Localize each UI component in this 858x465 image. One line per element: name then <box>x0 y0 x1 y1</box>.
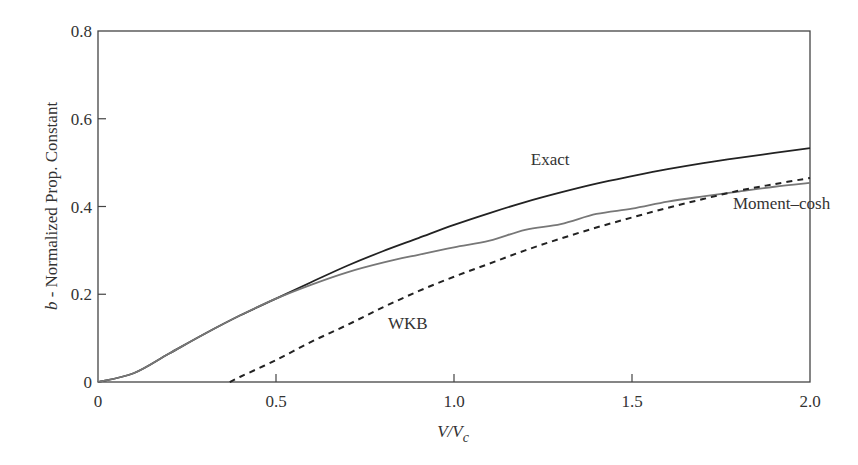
y-tick-label: 0 <box>84 373 93 392</box>
y-tick-label: 0.8 <box>71 22 92 41</box>
series-exact-line <box>98 148 810 382</box>
annotation-layer: ExactMoment–coshWKB <box>388 150 831 334</box>
y-axis-label-symbol: b <box>42 302 61 311</box>
y-axis-label: b - Normalized Prop. Constant <box>42 102 61 310</box>
y-tick-label: 0.4 <box>71 198 93 217</box>
x-tick-label: 1.0 <box>443 392 464 411</box>
chart: 00.20.40.60.8 00.51.01.52.0 ExactMoment–… <box>0 0 858 465</box>
y-tick-label: 0.6 <box>71 110 92 129</box>
annotation-wkb: WKB <box>388 314 428 333</box>
x-tick-label: 1.5 <box>621 392 642 411</box>
x-axis-label-main: V/V <box>437 422 465 441</box>
annotation-moment-cosh: Moment–cosh <box>733 194 831 213</box>
y-axis-label-text: - Normalized Prop. Constant <box>42 102 61 302</box>
x-axis-label-subscript: c <box>463 430 470 445</box>
plot-frame <box>98 31 810 382</box>
x-axis-label: V/Vc <box>437 422 470 445</box>
series-layer <box>98 148 810 382</box>
x-tick-label: 2.0 <box>799 392 820 411</box>
x-axis-ticks: 00.51.01.52.0 <box>94 374 821 411</box>
y-tick-label: 0.2 <box>71 285 92 304</box>
x-tick-label: 0.5 <box>265 392 286 411</box>
x-tick-label: 0 <box>94 392 103 411</box>
y-axis-ticks: 00.20.40.60.8 <box>71 22 106 392</box>
annotation-exact: Exact <box>531 150 570 169</box>
plot-area-border <box>98 31 810 382</box>
series-moment-cosh-line <box>98 183 810 382</box>
